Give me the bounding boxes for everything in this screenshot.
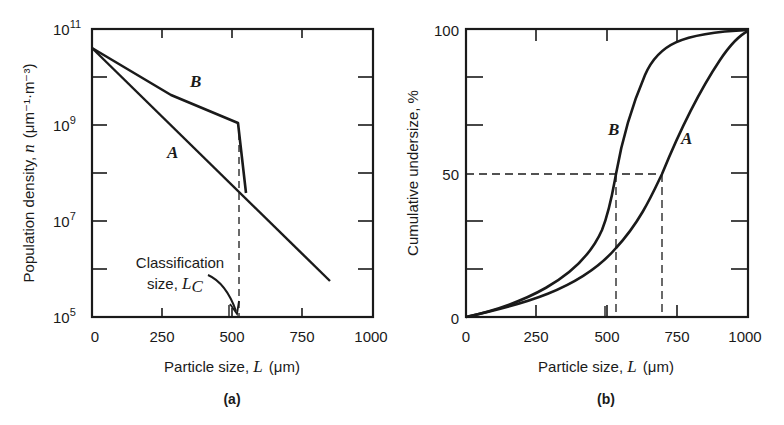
panel-a-caption: (a) (223, 391, 240, 407)
classification-annotation-line1: Classification (136, 254, 224, 271)
svg-text:0: 0 (91, 328, 99, 345)
panel-b-caption: (b) (597, 391, 615, 407)
svg-text:0: 0 (462, 328, 470, 345)
panel-a: 1011 109 107 105 0 250 500 750 1000 Part… (19, 18, 388, 407)
svg-text:750: 750 (289, 328, 314, 345)
svg-text:750: 750 (664, 328, 689, 345)
series-a-line (92, 48, 330, 281)
classification-annotation-line2: size, LC (147, 274, 203, 296)
plot-a-y-axis-label: Population density, n(μm⁻¹·m⁻³) (19, 64, 38, 283)
plot-a-x-axis-label: Particle size, L(μm) (164, 357, 300, 376)
plot-b-frame (466, 29, 748, 317)
svg-text:100: 100 (434, 22, 459, 39)
svg-text:500: 500 (219, 328, 244, 345)
svg-text:105: 105 (53, 306, 76, 326)
svg-text:500: 500 (594, 328, 619, 345)
svg-text:1000: 1000 (354, 328, 387, 345)
series-a-label: A (680, 129, 692, 148)
panel-b: 100 50 0 0 250 500 750 1000 Particle siz… (404, 22, 762, 407)
series-b-label: B (607, 120, 619, 139)
figure: 1011 109 107 105 0 250 500 750 1000 Part… (0, 0, 784, 425)
svg-text:1000: 1000 (728, 328, 761, 345)
plot-a-y-ticks (92, 77, 373, 269)
svg-text:250: 250 (149, 328, 174, 345)
plot-b-x-axis-label: Particle size, L(μm) (538, 357, 674, 376)
plot-b-x-tick-labels: 0 250 500 750 1000 (462, 328, 762, 345)
plot-b-y-ticks (466, 77, 748, 269)
svg-text:50: 50 (442, 166, 459, 183)
plot-b-y-axis-label: Cumulative undersize, % (404, 90, 421, 256)
plot-a-x-tick-labels: 0 250 500 750 1000 (91, 328, 388, 345)
svg-text:107: 107 (53, 210, 76, 230)
plot-b-y-tick-labels: 100 50 0 (434, 22, 459, 327)
svg-text:0: 0 (451, 310, 459, 327)
series-b-label: B (189, 72, 201, 91)
svg-text:250: 250 (523, 328, 548, 345)
plot-b-x-ticks (536, 29, 677, 317)
plot-a-y-tick-labels: 1011 109 107 105 (53, 18, 81, 326)
series-a-label: A (166, 143, 178, 162)
median-guides (466, 174, 662, 317)
svg-text:109: 109 (53, 114, 76, 134)
svg-text:1011: 1011 (53, 18, 81, 38)
